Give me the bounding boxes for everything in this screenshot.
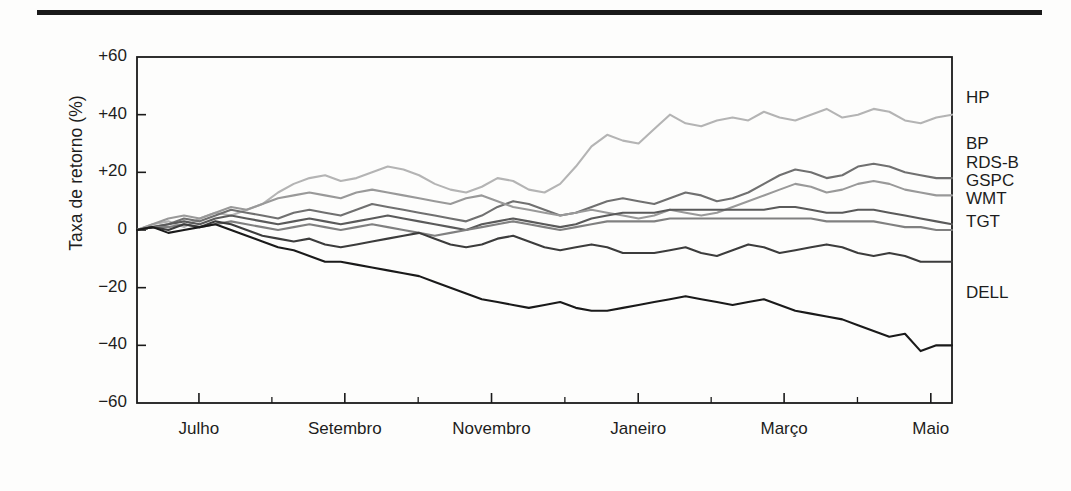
x-tick-label: Novembro xyxy=(452,419,530,439)
axis-frame xyxy=(137,57,952,403)
legend-item-dell: DELL xyxy=(966,283,1009,303)
series-line-dell xyxy=(137,224,952,351)
x-tick-label: Janeiro xyxy=(610,419,666,439)
y-tick-label: 0 xyxy=(75,219,127,239)
x-tick-label: Maio xyxy=(912,419,949,439)
axis-ticks xyxy=(137,115,931,403)
y-tick-label: −40 xyxy=(75,334,127,354)
plot-border xyxy=(137,57,952,403)
y-tick-label: +60 xyxy=(75,46,127,66)
y-tick-label: −20 xyxy=(75,277,127,297)
legend-item-wmt: WMT xyxy=(966,189,1007,209)
chart-plot-area xyxy=(0,0,1071,491)
legend-item-tgt: TGT xyxy=(966,212,1000,232)
chart-page: Taxa de retorno (%) +60+40+200−20−40−60 … xyxy=(0,0,1071,491)
series-line-rds-b xyxy=(137,181,952,230)
legend-item-rds-b: RDS-B xyxy=(966,153,1019,173)
x-tick-label: Setembro xyxy=(308,419,382,439)
series-lines xyxy=(137,109,952,351)
legend-item-bp: BP xyxy=(966,134,989,154)
x-tick-label: Julho xyxy=(179,419,220,439)
legend-item-gspc: GSPC xyxy=(966,171,1014,191)
y-tick-label: −60 xyxy=(75,392,127,412)
legend-item-hp: HP xyxy=(966,88,990,108)
x-tick-label: Março xyxy=(760,419,807,439)
y-tick-label: +20 xyxy=(75,161,127,181)
y-tick-label: +40 xyxy=(75,104,127,124)
